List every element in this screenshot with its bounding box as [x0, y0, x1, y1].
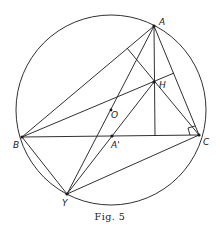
- point-C: [197, 133, 200, 136]
- point-H: [152, 80, 155, 83]
- label-Y: Y: [62, 198, 69, 208]
- geometry-figure: A B C H O A' Y Fig. 5: [0, 0, 220, 234]
- segment-BY: [22, 137, 67, 194]
- label-C: C: [203, 137, 210, 147]
- label-O: O: [111, 110, 118, 120]
- label-A-prime: A': [110, 140, 120, 150]
- point-B: [20, 135, 23, 138]
- label-H: H: [159, 80, 166, 90]
- segment-CY: [67, 135, 199, 194]
- altitude-from-C: [127, 48, 199, 135]
- line-HY: [67, 82, 154, 194]
- label-A: A: [158, 17, 165, 27]
- figure-caption: Fig. 5: [95, 211, 126, 222]
- point-A: [152, 24, 155, 27]
- side-AB: [22, 26, 154, 137]
- right-angle-mark-C: [188, 126, 195, 135]
- altitude-from-B: [22, 73, 174, 137]
- point-A-prime: [110, 134, 113, 137]
- point-Y: [65, 192, 68, 195]
- label-B: B: [13, 140, 19, 150]
